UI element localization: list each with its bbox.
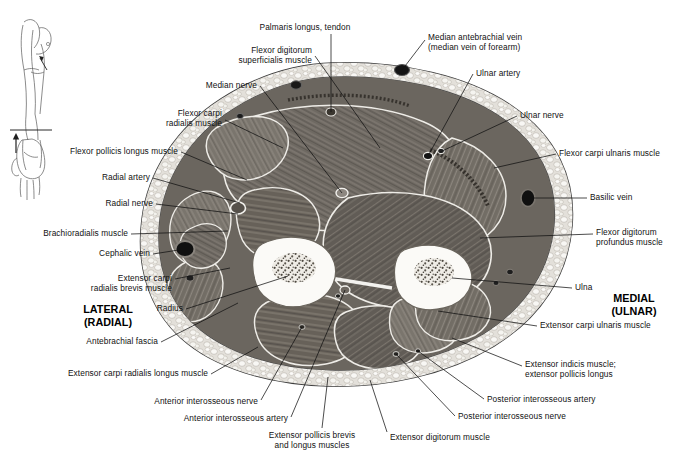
label-anterior-interosseous-nerve: Anterior interosseous nerve <box>108 396 258 406</box>
label-flexor-carpi-ulnaris-muscle: Flexor carpi ulnaris muscle <box>559 148 674 158</box>
label-extensor-carpi-radialis-longus-muscle: Extensor carpi radialis longus muscle <box>18 368 208 378</box>
radius-bone <box>253 237 336 307</box>
label-flexor-digitorum-profundus-muscle: Flexor digitorum profundus muscle <box>596 227 674 247</box>
leader-median-antebrachial-vein <box>402 40 425 70</box>
label-anterior-interosseous-artery: Anterior interosseous artery <box>138 413 288 423</box>
label-extensor-carpi-ulnaris-muscle: Extensor carpi ulnaris muscle <box>540 320 674 330</box>
superficial-vein-marker-a <box>291 81 302 89</box>
side-marker-lateral: LATERAL (RADIAL) <box>48 303 168 329</box>
superficial-vein-marker-d <box>507 269 514 275</box>
label-extensor-pollicis-brevis-longus: Extensor pollicis brevis and longus musc… <box>242 430 382 450</box>
label-posterior-interosseous-artery: Posterior interosseous artery <box>487 394 637 404</box>
ulnar-nerve-marker <box>438 148 445 153</box>
label-ulnar-nerve: Ulnar nerve <box>520 110 610 120</box>
label-ulna: Ulna <box>575 282 635 292</box>
label-median-antebrachial-vein: Median antebrachial vein (median vein of… <box>428 32 578 52</box>
label-extensor-indicis-muscle: Extensor indicis muscle; extensor pollic… <box>525 359 665 379</box>
label-brachioradialis-muscle: Brachioradialis muscle <box>0 228 128 238</box>
label-posterior-interosseous-nerve: Posterior interosseous nerve <box>458 411 608 421</box>
arm-orientation-diagram <box>10 20 52 200</box>
label-extensor-carpi-radialis-brevis-muscle: Extensor carpi radialis brevis muscle <box>54 273 172 293</box>
label-median-nerve: Median nerve <box>157 80 257 90</box>
label-flexor-pollicis-longus-muscle: Flexor pollicis longus muscle <box>28 146 178 156</box>
label-radial-artery: Radial artery <box>50 172 150 182</box>
side-marker-medial: MEDIAL (ULNAR) <box>574 292 674 318</box>
label-flexor-carpi-radialis-muscle: Flexor carpi radialis muscle <box>122 108 222 128</box>
ulna-bone <box>394 245 471 310</box>
label-ulnar-artery: Ulnar artery <box>476 68 566 78</box>
figure-canvas: Palmaris longus, tendonFlexor digitorum … <box>0 0 674 462</box>
superficial-vein-marker-b <box>237 113 244 118</box>
label-extensor-digitorum-muscle: Extensor digitorum muscle <box>390 432 540 442</box>
label-basilic-vein: Basilic vein <box>590 192 670 202</box>
label-cephalic-vein: Cephalic vein <box>50 248 150 258</box>
label-flexor-digitorum-superficialis-muscle: Flexor digitorum superficialis muscle <box>202 45 312 65</box>
radial-artery-nerve-marker <box>231 202 246 214</box>
leader-extensor-digitorum-muscle <box>370 380 387 432</box>
label-radial-nerve: Radial nerve <box>53 198 153 208</box>
label-antebrachial-fascia: Antebrachial fascia <box>38 336 158 346</box>
anterior-interosseous-nerve-marker <box>335 294 340 298</box>
label-palmaris-longus-tendon: Palmaris longus, tendon <box>245 22 365 32</box>
